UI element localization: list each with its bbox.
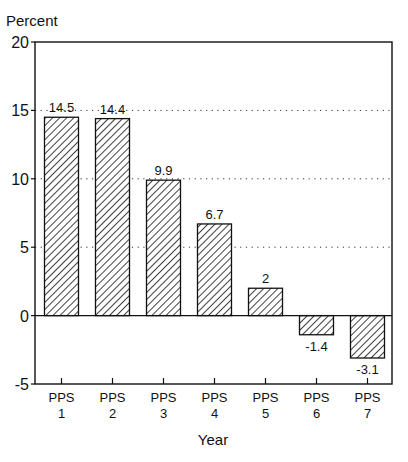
x-tick-label: PPS xyxy=(201,390,227,405)
y-axis-label: Percent xyxy=(6,12,59,29)
x-tick-label: PPS xyxy=(303,390,329,405)
x-tick-label: 5 xyxy=(262,406,269,421)
x-tick-label: PPS xyxy=(150,390,176,405)
x-tick-label: 6 xyxy=(313,406,320,421)
bar-value-label: 2 xyxy=(262,271,269,286)
bar-value-label: -3.1 xyxy=(356,362,378,377)
bar xyxy=(249,288,283,315)
bar-chart: Percent 14.514.49.96.72-1.4-3.1 -5051015… xyxy=(0,0,408,462)
bar-value-label: 14.4 xyxy=(100,102,125,117)
x-tick-label: 1 xyxy=(58,406,65,421)
bar xyxy=(45,117,79,315)
bar-value-label: 14.5 xyxy=(49,100,74,115)
bar-value-label: 9.9 xyxy=(154,163,172,178)
x-tick-label: PPS xyxy=(252,390,278,405)
x-tick-label: PPS xyxy=(99,390,125,405)
y-ticks: -505101520 xyxy=(11,34,35,393)
bar-value-label: -1.4 xyxy=(305,339,327,354)
x-tick-label: 3 xyxy=(160,406,167,421)
y-tick-label: 15 xyxy=(11,102,29,119)
y-tick-label: -5 xyxy=(15,376,29,393)
bar xyxy=(96,119,130,316)
y-tick-label: 0 xyxy=(20,308,29,325)
bar xyxy=(351,316,385,358)
bar-value-label: 6.7 xyxy=(205,207,223,222)
bar xyxy=(198,224,232,316)
y-tick-label: 5 xyxy=(20,239,29,256)
x-tick-label: PPS xyxy=(48,390,74,405)
bar xyxy=(300,316,334,335)
x-axis-label: Year xyxy=(198,431,228,448)
x-tick-label: 7 xyxy=(364,406,371,421)
bars: 14.514.49.96.72-1.4-3.1 xyxy=(45,100,385,377)
y-tick-label: 10 xyxy=(11,171,29,188)
x-tick-label: PPS xyxy=(354,390,380,405)
x-tick-label: 2 xyxy=(109,406,116,421)
x-tick-label: 4 xyxy=(211,406,218,421)
bar xyxy=(147,180,181,315)
y-tick-label: 20 xyxy=(11,34,29,51)
